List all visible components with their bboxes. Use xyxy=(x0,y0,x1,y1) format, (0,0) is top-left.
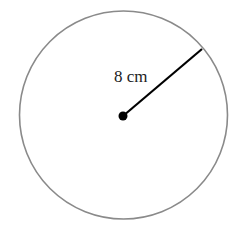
center-point xyxy=(119,112,128,121)
circle-diagram: 8 cm xyxy=(0,0,237,227)
radius-label: 8 cm xyxy=(114,67,148,86)
